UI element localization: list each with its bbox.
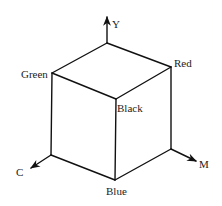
c-axis-arrow: [31, 155, 51, 168]
m-axis-arrow: [171, 149, 196, 161]
axis-label-y: Y: [112, 18, 120, 30]
vertex-label-blue: Blue: [106, 185, 127, 197]
cmy-cube-diagram: Y C M Green Red Black Blue: [0, 0, 222, 206]
vertex-label-green: Green: [21, 68, 48, 80]
vertex-label-black: Black: [117, 102, 143, 114]
vertex-label-red: Red: [174, 57, 192, 69]
axis-label-m: M: [199, 158, 209, 170]
axis-label-c: C: [16, 166, 23, 178]
cube-edges: [51, 43, 171, 180]
